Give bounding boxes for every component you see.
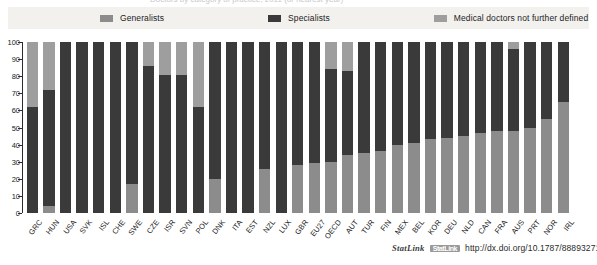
bar-segment	[558, 42, 569, 102]
x-tick-label: ITA	[230, 218, 244, 232]
bar-segment	[76, 42, 87, 213]
bar-column[interactable]	[505, 42, 522, 213]
bar-column[interactable]	[240, 42, 257, 213]
y-tick-mark	[18, 179, 22, 180]
bar-segment	[458, 136, 469, 213]
bar-segment	[425, 42, 436, 139]
statlink-url[interactable]: http://dx.doi.org/10.1787/888932710897	[465, 243, 597, 253]
bar-column[interactable]	[223, 42, 240, 213]
bar-segment	[276, 42, 287, 213]
x-tick-label: NOR	[542, 218, 559, 237]
legend-swatch-not-defined-icon	[434, 15, 447, 22]
legend-label-generalists: Generalists	[120, 13, 164, 23]
bar-segment	[358, 42, 369, 153]
page-title: Doctors by category of practice, 2011 (o…	[150, 0, 343, 4]
x-tick-label: AUT	[343, 218, 359, 235]
chart-title-clipped: Doctors by category of practice, 2011 (o…	[0, 0, 597, 7]
x-tick-label: USA	[61, 218, 78, 236]
x-tick-label: ISL	[97, 218, 111, 232]
x-tick-label: DNK	[210, 218, 227, 236]
bar-column[interactable]	[74, 42, 91, 213]
bar-column[interactable]	[306, 42, 323, 213]
y-axis-line	[22, 42, 23, 213]
bar-segment	[392, 145, 403, 213]
bar-segment	[143, 42, 154, 66]
bar-segment	[342, 155, 353, 213]
bar-column[interactable]	[90, 42, 107, 213]
bar-column[interactable]	[472, 42, 489, 213]
bar-segment	[342, 71, 353, 155]
bar-segment	[441, 42, 452, 138]
bar-column[interactable]	[323, 42, 340, 213]
x-tick-label: BEL	[410, 218, 426, 235]
bar-segment	[176, 42, 187, 74]
y-tick-mark	[18, 76, 22, 77]
bar-column[interactable]	[157, 42, 174, 213]
bar-segment	[541, 119, 552, 213]
x-tick-label: HUN	[44, 218, 61, 236]
bar-column[interactable]	[140, 42, 157, 213]
bar-column[interactable]	[190, 42, 207, 213]
bar-segment	[441, 138, 452, 213]
legend-item-specialists[interactable]: Specialists	[268, 13, 330, 23]
bar-column[interactable]	[57, 42, 74, 213]
x-tick-label: ISR	[162, 218, 177, 233]
legend-item-generalists[interactable]: Generalists	[100, 13, 164, 23]
bar-segment	[27, 107, 38, 213]
statlink-label: StatLink	[392, 243, 425, 253]
legend-swatch-generalists-icon	[100, 15, 113, 22]
y-tick-mark	[18, 128, 22, 129]
y-tick-mark	[18, 110, 22, 111]
bar-column[interactable]	[489, 42, 506, 213]
x-tick-label: SVN	[177, 218, 194, 236]
bar-column[interactable]	[356, 42, 373, 213]
bar-column[interactable]	[24, 42, 41, 213]
y-axis: 0102030405060708090100	[0, 36, 20, 218]
y-tick-mark	[18, 93, 22, 94]
bar-segment	[408, 143, 419, 213]
bar-column[interactable]	[555, 42, 572, 213]
bar-segment	[110, 42, 121, 213]
bar-column[interactable]	[107, 42, 124, 213]
bar-column[interactable]	[256, 42, 273, 213]
y-tick-mark	[18, 145, 22, 146]
bar-column[interactable]	[439, 42, 456, 213]
statlink-footer: StatLink StatLink http://dx.doi.org/10.1…	[392, 243, 597, 253]
bar-column[interactable]	[455, 42, 472, 213]
x-tick-label: GBR	[293, 218, 310, 236]
bar-column[interactable]	[207, 42, 224, 213]
bar-segment	[358, 153, 369, 213]
bar-column[interactable]	[522, 42, 539, 213]
statlink-badge-icon: StatLink	[430, 245, 460, 252]
x-tick-label: MEX	[392, 218, 409, 236]
bar-segment	[491, 131, 502, 213]
bar-segment	[309, 42, 320, 163]
x-tick-label: DEU	[443, 218, 460, 236]
bar-column[interactable]	[41, 42, 58, 213]
bar-column[interactable]	[173, 42, 190, 213]
bar-column[interactable]	[372, 42, 389, 213]
x-tick-label: EST	[244, 218, 260, 235]
bar-segment	[325, 42, 336, 69]
bar-segment	[27, 42, 38, 107]
bar-segment	[491, 42, 502, 131]
bar-segment	[176, 75, 187, 214]
bar-segment	[209, 42, 220, 179]
x-tick-label: SVK	[78, 218, 94, 235]
bar-segment	[143, 66, 154, 213]
bar-segment	[475, 133, 486, 213]
bar-column[interactable]	[406, 42, 423, 213]
x-tick-label: TUR	[360, 218, 377, 236]
legend-item-not-defined[interactable]: Medical doctors not further defined	[434, 13, 588, 23]
bar-column[interactable]	[389, 42, 406, 213]
bar-column[interactable]	[422, 42, 439, 213]
legend-label-specialists: Specialists	[288, 13, 330, 23]
y-tick-mark	[18, 213, 22, 214]
bar-segment	[325, 69, 336, 161]
bar-column[interactable]	[538, 42, 555, 213]
bar-column[interactable]	[273, 42, 290, 213]
bar-segment	[193, 107, 204, 213]
bar-column[interactable]	[339, 42, 356, 213]
bar-column[interactable]	[124, 42, 141, 213]
bar-column[interactable]	[290, 42, 307, 213]
